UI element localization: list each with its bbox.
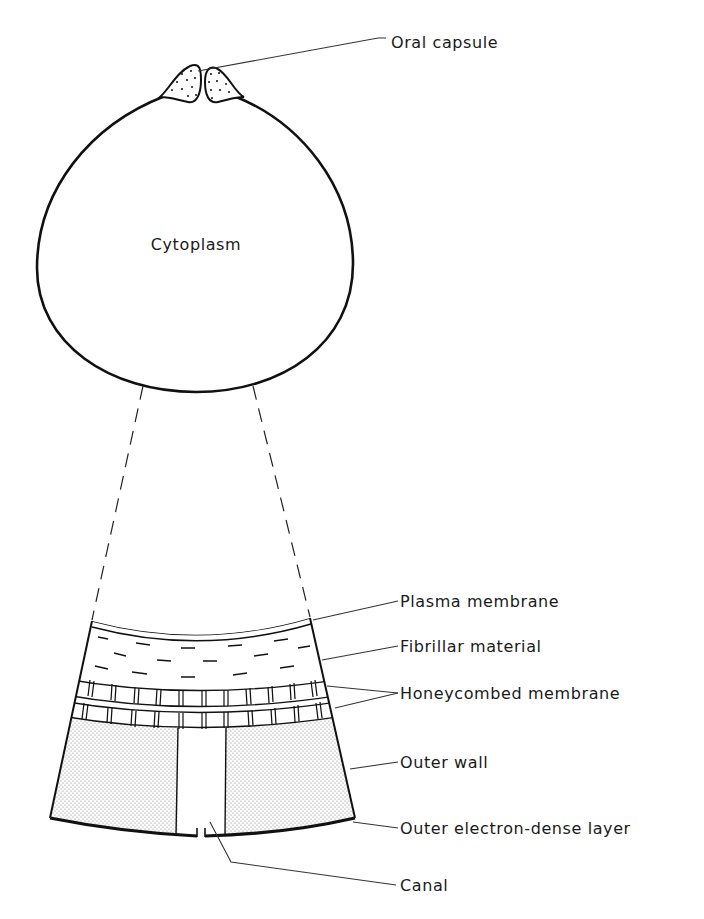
projection-line-right xyxy=(253,386,310,617)
outer-electron-dense-layer-leader xyxy=(353,822,398,828)
outer-wall-leader xyxy=(350,762,398,769)
oral-capsule-left xyxy=(160,65,201,102)
oral-capsule-leader xyxy=(198,38,386,71)
projection-line-left xyxy=(92,386,143,620)
fibrillar-material-leader xyxy=(322,646,398,660)
plasma-membrane-label: Plasma membrane xyxy=(400,592,559,611)
cell-wall-diagram: Cytoplasm Oral capsule xyxy=(0,0,704,919)
honeycomb-band-1 xyxy=(60,676,360,707)
fibrillar-material-label: Fibrillar material xyxy=(400,637,542,656)
outer-electron-dense-layer-label: Outer electron-dense layer xyxy=(400,819,631,838)
canal-label: Canal xyxy=(400,876,448,895)
honeycombed-membrane-leader-2 xyxy=(335,693,398,708)
fibrillar-dashes xyxy=(95,637,310,677)
honeycombed-membrane-leader-1 xyxy=(327,686,398,693)
cytoplasm-label: Cytoplasm xyxy=(151,235,241,254)
plasma-membrane-leader xyxy=(313,601,398,620)
oral-capsule-right xyxy=(205,68,244,103)
outer-wall-label: Outer wall xyxy=(400,753,488,772)
cell-body: Cytoplasm xyxy=(37,65,353,392)
wall-section xyxy=(40,618,370,870)
oral-capsule-label: Oral capsule xyxy=(391,33,498,52)
honeycombed-membrane-label: Honeycombed membrane xyxy=(400,684,620,703)
